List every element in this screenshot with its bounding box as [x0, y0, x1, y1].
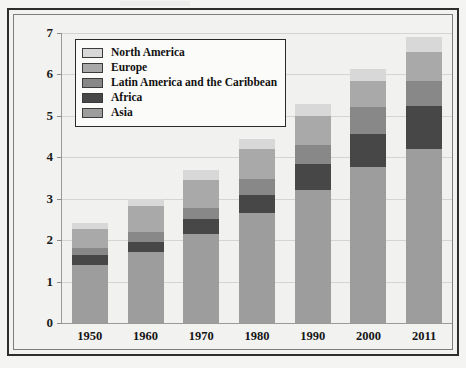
legend-item[interactable]: Africa — [82, 91, 277, 105]
y-tick-label: 4 — [47, 149, 54, 165]
bar-stack[interactable] — [350, 69, 386, 323]
bar-segment[interactable] — [350, 69, 386, 81]
bar-segment[interactable] — [239, 213, 275, 323]
bar-segment[interactable] — [72, 223, 108, 229]
legend-item[interactable]: Europe — [82, 61, 277, 75]
legend-item-label: Europe — [111, 62, 147, 74]
figure-frame-inner: Population in billions 01234567 19501960… — [13, 14, 453, 350]
bar-segment[interactable] — [183, 180, 219, 208]
bar-segment[interactable] — [295, 164, 331, 190]
bar-segment[interactable] — [183, 219, 219, 234]
figure-frame-outer: Population in billions 01234567 19501960… — [7, 8, 459, 356]
scanned-page: Population in billions 01234567 19501960… — [0, 0, 466, 368]
bar-segment[interactable] — [239, 149, 275, 179]
bar-segment[interactable] — [128, 199, 164, 206]
bar-stack[interactable] — [406, 37, 442, 323]
bar-segment[interactable] — [406, 37, 442, 52]
y-tick-label: 7 — [47, 25, 54, 41]
y-tick-label: 6 — [47, 66, 54, 82]
legend-swatch-icon — [82, 63, 103, 73]
bar-segment[interactable] — [183, 234, 219, 323]
bar-segment[interactable] — [295, 116, 331, 145]
scan-artifact — [120, 1, 190, 6]
bar-segment[interactable] — [183, 208, 219, 220]
legend-item-label: Asia — [111, 107, 133, 119]
bar-segment[interactable] — [72, 265, 108, 323]
legend-swatch-icon — [82, 78, 103, 88]
bar-stack[interactable] — [183, 170, 219, 323]
legend-swatch-icon — [82, 48, 103, 58]
bar-segment[interactable] — [350, 167, 386, 323]
x-tick-label: 2011 — [396, 329, 452, 344]
legend-item-label: Latin America and the Caribbean — [111, 77, 277, 89]
bar-segment[interactable] — [72, 248, 108, 255]
x-tick-label: 1970 — [173, 329, 229, 344]
y-tick-mark — [57, 323, 62, 324]
bar-segment[interactable] — [239, 195, 275, 213]
legend-item[interactable]: Asia — [82, 106, 277, 120]
bar-segment[interactable] — [72, 229, 108, 249]
bar-stack[interactable] — [295, 104, 331, 323]
bar-segment[interactable] — [350, 134, 386, 168]
bar-segment[interactable] — [295, 190, 331, 323]
bar-segment[interactable] — [128, 242, 164, 252]
bar-segment[interactable] — [350, 81, 386, 107]
x-tick-label: 1960 — [118, 329, 174, 344]
bar-segment[interactable] — [72, 255, 108, 265]
bar-segment[interactable] — [350, 107, 386, 134]
bar-segment[interactable] — [183, 170, 219, 180]
bar-segment[interactable] — [239, 179, 275, 196]
legend-swatch-icon — [82, 93, 103, 103]
chart-legend: North AmericaEuropeLatin America and the… — [75, 39, 286, 127]
bar-segment[interactable] — [295, 145, 331, 164]
bar-stack[interactable] — [239, 139, 275, 323]
bar-segment[interactable] — [128, 232, 164, 242]
legend-item-label: Africa — [111, 92, 142, 104]
bar-segment[interactable] — [406, 106, 442, 149]
x-tick-label: 1980 — [229, 329, 285, 344]
x-tick-label: 1950 — [62, 329, 118, 344]
legend-item[interactable]: Latin America and the Caribbean — [82, 76, 277, 90]
bar-segment[interactable] — [295, 104, 331, 116]
legend-swatch-icon — [82, 108, 103, 118]
bar-stack[interactable] — [128, 199, 164, 323]
x-tick-label: 2000 — [341, 329, 397, 344]
y-tick-label: 0 — [47, 315, 54, 331]
bar-segment[interactable] — [239, 139, 275, 149]
legend-item[interactable]: North America — [82, 46, 277, 60]
bar-segment[interactable] — [406, 149, 442, 323]
x-tick-label: 1990 — [285, 329, 341, 344]
y-tick-label: 3 — [47, 191, 54, 207]
bar-segment[interactable] — [128, 206, 164, 232]
y-tick-label: 5 — [47, 108, 54, 124]
y-tick-label: 1 — [47, 274, 54, 290]
bar-segment[interactable] — [128, 252, 164, 323]
bar-segment[interactable] — [406, 52, 442, 82]
stacked-bar-chart: Population in billions 01234567 19501960… — [14, 15, 466, 363]
legend-item-label: North America — [111, 47, 185, 59]
y-tick-label: 2 — [47, 232, 54, 248]
bar-stack[interactable] — [72, 223, 108, 323]
bar-segment[interactable] — [406, 81, 442, 105]
